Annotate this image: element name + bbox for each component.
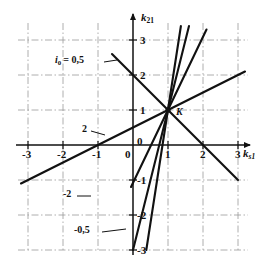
parameter-annotation: i0= 0,5 xyxy=(55,55,84,67)
x-tick-label-3: 3 xyxy=(235,149,241,160)
leader-lines xyxy=(77,60,126,232)
x-tick-label-1: 1 xyxy=(165,149,171,160)
y-tick-label--2: -2 xyxy=(137,210,146,221)
x-tick-label--3: -3 xyxy=(22,149,31,160)
y-tick-label-2: 2 xyxy=(140,70,146,81)
axes xyxy=(16,14,250,255)
y-tick-label-1: 1 xyxy=(140,105,146,116)
curve-label-minus-2: -2 xyxy=(63,189,71,199)
curve-label-2: 2 xyxy=(82,124,87,134)
parameter-value: = 0,5 xyxy=(63,54,84,65)
point-k-marker xyxy=(165,107,170,112)
x-axis-label-sub: s1 xyxy=(249,152,256,161)
leader-curve-minus05 xyxy=(102,229,126,232)
y-tick-label-3: 3 xyxy=(140,35,146,46)
x-tick-label--1: -1 xyxy=(92,149,101,160)
parameter-symbol-sub: 0 xyxy=(58,59,61,66)
y-axis-label: k21 xyxy=(141,12,154,25)
y-tick-label-0: 0 xyxy=(137,136,143,147)
chart-figure: k21 ks1 -3 -2 -1 0 1 2 3 3 2 1 0 -1 -2 -… xyxy=(0,0,271,262)
point-k-label: K xyxy=(176,107,183,117)
curve-label-minus-05: -0,5 xyxy=(74,225,90,235)
x-tick-label-0: 0 xyxy=(125,149,131,160)
plot-canvas xyxy=(0,0,271,262)
line-i0-0p5 xyxy=(112,54,238,180)
x-tick-label-2: 2 xyxy=(200,149,206,160)
y-tick-label--1: -1 xyxy=(137,175,146,186)
y-axis-label-sub: 21 xyxy=(147,16,154,25)
x-tick-label--2: -2 xyxy=(57,149,66,160)
leader-i0 xyxy=(104,60,117,62)
y-tick-label--3: -3 xyxy=(137,245,146,256)
x-axis-label: ks1 xyxy=(243,148,255,161)
line-i0--0p5 xyxy=(146,26,181,250)
